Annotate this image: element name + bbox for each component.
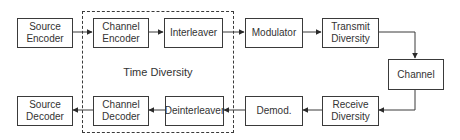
transmit-diversity-block: Transmit Diversity [322, 18, 379, 48]
modulator-label: Modulator [252, 27, 296, 39]
source-encoder-block: Source Encoder [17, 18, 73, 48]
channel-decoder-block: Channel Decoder [93, 96, 149, 126]
channel-encoder-label: Channel Encoder [102, 21, 139, 45]
channel-label: Channel [397, 69, 434, 81]
source-decoder-block: Source Decoder [17, 96, 73, 126]
interleaver-block: Interleaver [164, 18, 223, 48]
receive-diversity-label: Receive Diversity [331, 99, 369, 123]
source-decoder-label: Source Decoder [26, 99, 64, 123]
channel-encoder-block: Channel Encoder [93, 18, 149, 48]
source-encoder-label: Source Encoder [26, 21, 63, 45]
demod-label: Demod. [256, 105, 291, 117]
interleaver-label: Interleaver [170, 27, 217, 39]
transmit-diversity-label: Transmit Diversity [331, 21, 370, 45]
demod-block: Demod. [245, 96, 303, 126]
modulator-block: Modulator [245, 18, 303, 48]
deinterleaver-block: Deinterleaver [165, 96, 224, 126]
channel-block: Channel [388, 59, 444, 90]
receive-diversity-block: Receive Diversity [322, 96, 379, 126]
channel-decoder-label: Channel Decoder [102, 99, 140, 123]
deinterleaver-label: Deinterleaver [165, 105, 224, 117]
